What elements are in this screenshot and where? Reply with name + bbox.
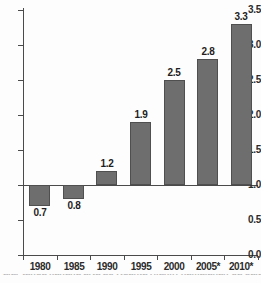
- x-tick-label: 2000: [157, 261, 191, 272]
- y-tick-label: 0.5: [244, 215, 261, 225]
- bar-value-label: 2.8: [191, 47, 225, 57]
- x-tick-label: 1990: [90, 261, 124, 272]
- x-tick-label: 2010*: [224, 261, 258, 272]
- bar: [197, 59, 218, 185]
- bar-value-label: 0.8: [57, 201, 91, 211]
- y-tick: [18, 45, 24, 46]
- bar-value-label: 1.9: [124, 110, 158, 120]
- x-tick-label: 2005*: [191, 261, 225, 272]
- y-tick: [18, 150, 24, 151]
- x-tick: [23, 256, 24, 260]
- x-tick-label: 1995: [124, 261, 158, 272]
- baseline-line-at-one: [23, 185, 258, 186]
- bar: [29, 185, 50, 206]
- x-tick: [90, 256, 91, 260]
- x-tick: [124, 256, 125, 260]
- cut-off-caption-text: alar tanda kanana arta ad Kuanta rilahir…: [3, 274, 261, 277]
- x-tick: [224, 256, 225, 260]
- y-tick: [18, 80, 24, 81]
- y-tick: [18, 10, 24, 11]
- bar-value-label: 3.3: [224, 12, 258, 22]
- x-tick: [57, 256, 58, 260]
- bar: [130, 122, 151, 185]
- bar-value-label: 2.5: [157, 68, 191, 78]
- bar-value-label: 0.7: [23, 208, 57, 218]
- x-tick: [157, 256, 158, 260]
- x-tick: [258, 256, 259, 260]
- bar: [231, 24, 252, 185]
- x-tick-label: 1980: [23, 261, 57, 272]
- bar: [96, 171, 117, 185]
- bar-value-label: 1.2: [90, 159, 124, 169]
- y-tick: [18, 220, 24, 221]
- x-tick: [191, 256, 192, 260]
- x-axis-line: [23, 255, 258, 256]
- x-tick-label: 1985: [57, 261, 91, 272]
- bar: [63, 185, 84, 199]
- y-tick: [18, 115, 24, 116]
- bar: [164, 80, 185, 185]
- bar-chart-figure: 0.00.51.01.52.02.53.03.5 0.70.81.21.92.5…: [0, 0, 261, 283]
- y-tick: [18, 185, 24, 186]
- cut-off-caption: alar tanda kanana arta ad Kuanta rilahir…: [0, 274, 261, 283]
